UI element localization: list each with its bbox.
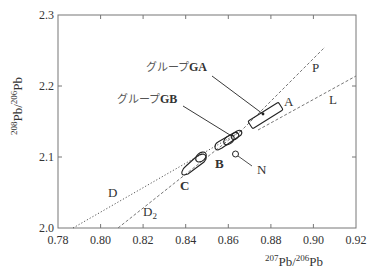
group-gb-label: グループGB — [117, 92, 177, 106]
line-d2 — [118, 131, 240, 228]
x-tick-label: 0.92 — [346, 233, 367, 247]
x-axis-title: 207Pb/206Pb — [265, 253, 323, 269]
group-ga-label: グループGA — [146, 60, 207, 74]
region-c — [182, 150, 208, 175]
label-b: B — [215, 156, 224, 171]
region-n — [233, 151, 239, 157]
y-tick-marks — [58, 86, 356, 157]
leader-n — [238, 156, 252, 166]
x-tick-label: 0.82 — [133, 233, 154, 247]
label-c: C — [180, 178, 189, 193]
chart: 0.78 0.80 0.82 0.84 0.86 0.88 0.90 0.92 … — [0, 0, 374, 273]
label-l: L — [329, 92, 337, 107]
x-tick-label: 0.80 — [90, 233, 111, 247]
label-d2: D2 — [143, 204, 157, 221]
label-p: P — [312, 60, 319, 75]
label-a: A — [284, 94, 294, 109]
x-tick-marks — [101, 15, 314, 228]
y-tick-label: 2.2 — [39, 79, 54, 93]
label-n: N — [257, 162, 267, 177]
y-tick-labels: 2.0 2.1 2.2 2.3 — [39, 8, 54, 235]
x-tick-label: 0.84 — [175, 233, 196, 247]
x-tick-label: 0.86 — [218, 233, 239, 247]
x-tick-label: 0.88 — [260, 233, 281, 247]
label-d: D — [108, 185, 117, 200]
x-tick-label: 0.90 — [303, 233, 324, 247]
y-tick-label: 2.0 — [39, 221, 54, 235]
y-axis-title: 208Pb/206Pb — [9, 77, 25, 135]
line-l — [258, 76, 356, 130]
leader-ga — [212, 76, 263, 114]
marker-ga — [262, 113, 265, 116]
y-tick-label: 2.3 — [39, 8, 54, 22]
leader-gb — [183, 106, 230, 135]
x-tick-label: 0.78 — [48, 233, 69, 247]
y-tick-label: 2.1 — [39, 150, 54, 164]
plot-frame — [58, 15, 356, 228]
x-tick-labels: 0.78 0.80 0.82 0.84 0.86 0.88 0.90 0.92 — [48, 233, 367, 247]
